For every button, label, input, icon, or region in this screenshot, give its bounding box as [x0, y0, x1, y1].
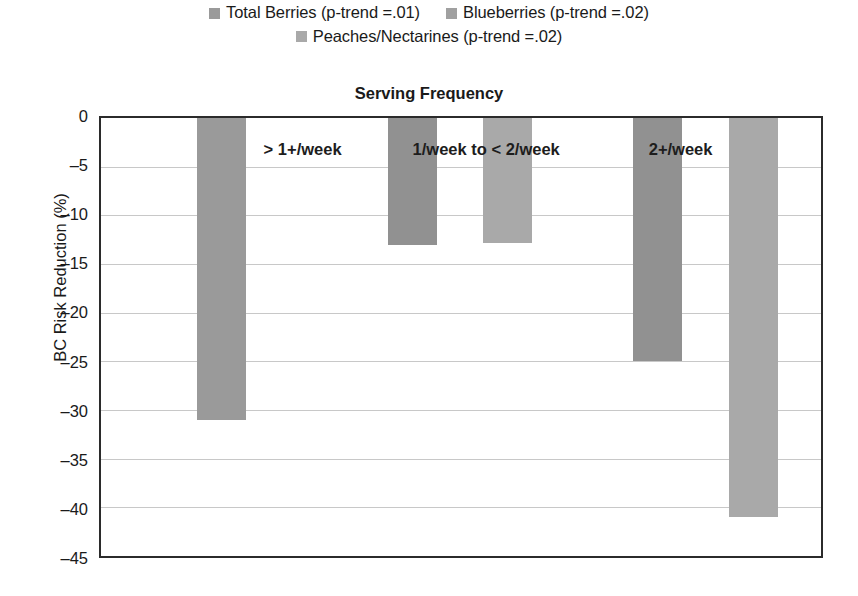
legend-item-blueberries: Blueberries (p-trend =.02): [446, 4, 649, 21]
bar-peaches-1to2week: [483, 118, 532, 243]
y-axis-tick-label: –30: [0, 401, 88, 420]
plot-inner: > 1+/week1/week to < 2/week2+/week: [101, 118, 821, 556]
group-label-0: > 1+/week: [264, 140, 342, 159]
group-label-2: 2+/week: [649, 140, 713, 159]
y-axis-tick-label: –10: [0, 205, 88, 224]
bar-total-berries-gt1week: [197, 118, 246, 420]
legend-item-total-berries: Total Berries (p-trend =.01): [209, 4, 420, 21]
y-axis-tick-label: –5: [0, 156, 88, 175]
gridline: [101, 507, 821, 508]
legend-row-2: Peaches/Nectarines (p-trend =.02): [0, 28, 858, 45]
legend-item-peaches-nectarines: Peaches/Nectarines (p-trend =.02): [296, 28, 562, 45]
y-axis-tick-label: –35: [0, 450, 88, 469]
y-axis-tick-label: –15: [0, 254, 88, 273]
bar-blueberries-1to2week: [388, 118, 437, 245]
y-axis-tick-label: –20: [0, 303, 88, 322]
gridline: [101, 459, 821, 460]
chart-title: Serving Frequency: [0, 84, 858, 103]
y-axis-tick-label: –25: [0, 352, 88, 371]
legend-swatch-blueberries: [446, 8, 457, 19]
legend-swatch-peaches-nectarines: [296, 31, 307, 42]
legend-label-total-berries: Total Berries (p-trend =.01): [226, 4, 420, 21]
y-axis-tick-label: 0: [0, 107, 88, 126]
y-axis-tick-label: –45: [0, 549, 88, 568]
bar-chart-figure: Total Berries (p-trend =.01) Blueberries…: [0, 0, 858, 596]
legend-swatch-total-berries: [209, 8, 220, 19]
group-label-1: 1/week to < 2/week: [413, 140, 560, 159]
bar-peaches-2week: [729, 118, 778, 517]
legend-label-peaches-nectarines: Peaches/Nectarines (p-trend =.02): [313, 28, 562, 45]
plot-area: > 1+/week1/week to < 2/week2+/week: [99, 116, 823, 558]
legend-row-1: Total Berries (p-trend =.01) Blueberries…: [0, 4, 858, 21]
y-axis-tick-label: –40: [0, 499, 88, 518]
legend-label-blueberries: Blueberries (p-trend =.02): [463, 4, 649, 21]
chart-legend: Total Berries (p-trend =.01) Blueberries…: [0, 4, 858, 44]
y-axis-tick-labels: 0–5–10–15–20–25–30–35–40–45: [0, 116, 94, 558]
